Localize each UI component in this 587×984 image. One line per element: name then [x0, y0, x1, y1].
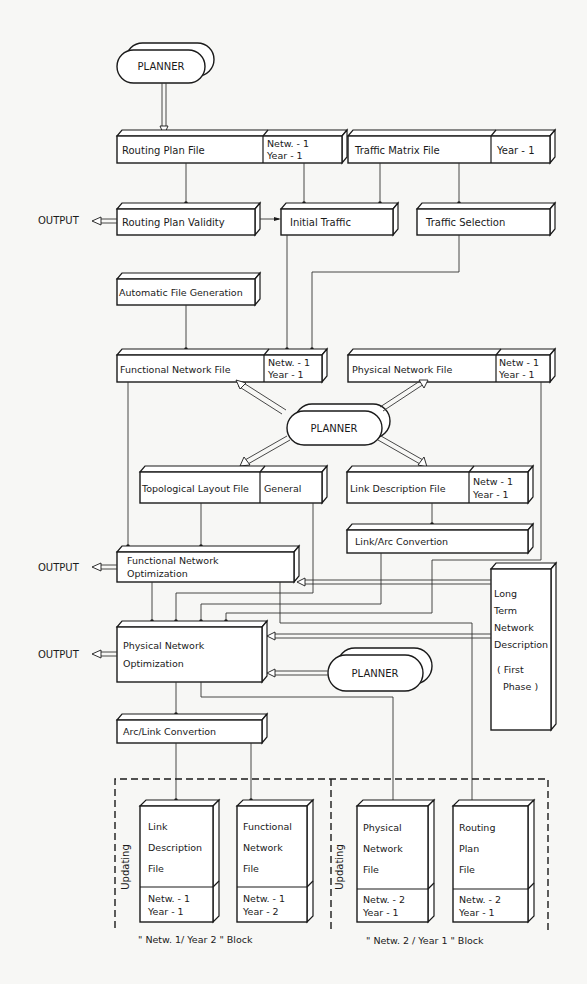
link-description-file-label: Link Description File [350, 483, 446, 494]
functional-network-file-box[interactable]: Functional Network File Netw. - 1 Year -… [117, 349, 327, 382]
long-term-line-3: Network [494, 622, 534, 633]
block2-file1-line1: Physical [363, 822, 402, 833]
planner-center: PLANNER [287, 404, 390, 445]
block1-file2-netw: Netw. - 1 [243, 893, 285, 904]
arc-link-convertion-box[interactable]: Arc/Link Convertion [117, 714, 267, 743]
planner-bottom-to-physical-arrow [267, 669, 328, 677]
long-term-to-physical-arrow [267, 632, 491, 640]
functional-network-file-netw: Netw. - 1 [268, 357, 310, 368]
block2-file1-netw: Netw. - 2 [363, 894, 405, 905]
block1-file1-netw: Netw. - 1 [148, 893, 190, 904]
block1-file1-line1: Link [148, 821, 168, 832]
network-planning-flow-diagram: PLANNER Routing Plan File Netw. - 1 Year… [0, 0, 587, 984]
routing-plan-file-netw: Netw. - 1 [267, 138, 309, 149]
block2-file2-line3: File [459, 864, 475, 875]
planner-bottom: PLANNER [328, 648, 432, 691]
block2-file2-netw: Netw. - 2 [459, 894, 501, 905]
block1-link-description-file[interactable]: Link Description File Netw. - 1 Year - 1 [140, 800, 219, 922]
block1-updating-label: Updating [120, 844, 131, 890]
block2-file1-line2: Network [363, 843, 403, 854]
long-term-line-1: Long [494, 588, 517, 599]
physical-network-optimization-line1: Physical Network [123, 640, 205, 651]
initial-traffic-label: Initial Traffic [290, 217, 351, 228]
automatic-file-generation-label: Automatic File Generation [119, 287, 243, 298]
output-label-validity: OUTPUT [38, 215, 80, 226]
physical-network-optimization-box[interactable]: Physical Network Optimization [117, 621, 267, 682]
traffic-matrix-file-box[interactable]: Traffic Matrix File Year - 1 [348, 130, 555, 163]
output-arrow-physical [92, 650, 117, 658]
routing-plan-file-box[interactable]: Routing Plan File Netw. - 1 Year - 1 [117, 130, 347, 163]
update-block-netw1-year2: Updating Link Description File Netw. - 1… [120, 800, 313, 945]
physical-network-file-label: Physical Network File [352, 364, 452, 375]
long-term-line-4: Description [494, 639, 548, 650]
link-description-file-box[interactable]: Link Description File Netw - 1 Year - 1 [347, 466, 533, 503]
link-arc-convertion-box[interactable]: Link/Arc Convertion [347, 524, 533, 553]
block2-updating-label: Updating [334, 844, 345, 890]
block1-file1-line2: Description [148, 842, 202, 853]
functional-network-optimization-line1: Functional Network [127, 555, 219, 566]
routing-plan-file-label: Routing Plan File [122, 145, 205, 156]
block2-physical-network-file[interactable]: Physical Network File Netw. - 2 Year - 1 [357, 800, 434, 922]
link-description-file-year: Year - 1 [472, 489, 509, 500]
routing-plan-validity-box[interactable]: Routing Plan Validity [117, 203, 260, 235]
topological-layout-file-box[interactable]: Topological Layout File General [140, 466, 327, 503]
long-term-network-description-box[interactable]: Long Term Network Description ( First Ph… [491, 563, 556, 730]
physical-network-optimization-line2: Optimization [123, 658, 184, 669]
routing-plan-validity-label: Routing Plan Validity [122, 217, 225, 228]
long-term-phase-line-2: Phase ) [503, 681, 538, 692]
planner-bottom-label: PLANNER [352, 668, 399, 679]
functional-network-optimization-box[interactable]: Functional Network Optimization [117, 546, 299, 582]
planner-top: PLANNER [117, 43, 214, 83]
traffic-matrix-file-label: Traffic Matrix File [354, 145, 440, 156]
block2-caption: " Netw. 2 / Year 1 " Block [366, 935, 484, 946]
output-arrow-functional [92, 563, 117, 571]
output-label-physical: OUTPUT [38, 649, 80, 660]
traffic-selection-box[interactable]: Traffic Selection [417, 203, 555, 235]
output-label-functional: OUTPUT [38, 562, 80, 573]
long-term-to-functional-arrow [297, 578, 491, 586]
functional-network-file-label: Functional Network File [120, 364, 231, 375]
link-description-file-netw: Netw - 1 [473, 476, 513, 487]
block2-routing-plan-file[interactable]: Routing Plan File Netw. - 2 Year - 1 [453, 800, 534, 922]
block1-file2-year: Year - 2 [242, 906, 279, 917]
block1-file1-line3: File [148, 863, 164, 874]
block2-file1-line3: File [363, 864, 379, 875]
topological-layout-file-tag: General [264, 483, 301, 494]
output-arrow-validity [92, 217, 117, 225]
traffic-matrix-file-year: Year - 1 [496, 145, 535, 156]
update-block-netw2-year1: Updating Physical Network File Netw. - 2… [334, 800, 534, 946]
block1-file2-line1: Functional [243, 821, 292, 832]
planner-top-to-routing-arrow [160, 83, 168, 135]
initial-traffic-box[interactable]: Initial Traffic [281, 203, 398, 235]
routing-plan-file-year: Year - 1 [266, 150, 303, 161]
traffic-selection-label: Traffic Selection [425, 217, 505, 228]
functional-network-file-year: Year - 1 [267, 369, 304, 380]
physical-network-file-year: Year - 1 [498, 369, 535, 380]
physical-network-file-box[interactable]: Physical Network File Netw - 1 Year - 1 [348, 349, 555, 382]
long-term-line-2: Term [493, 605, 517, 616]
functional-network-optimization-line2: Optimization [127, 568, 188, 579]
topological-layout-file-label: Topological Layout File [141, 483, 249, 494]
block2-file2-line2: Plan [459, 843, 479, 854]
planner-center-label: PLANNER [311, 423, 358, 434]
block2-file1-year: Year - 1 [362, 907, 399, 918]
automatic-file-generation-box[interactable]: Automatic File Generation [117, 273, 260, 305]
block1-caption: " Netw. 1/ Year 2 " Block [138, 934, 253, 945]
physical-network-file-netw: Netw - 1 [499, 357, 539, 368]
block1-functional-network-file[interactable]: Functional Network File Netw. - 1 Year -… [237, 800, 313, 922]
block1-file1-year: Year - 1 [147, 906, 184, 917]
arc-link-convertion-label: Arc/Link Convertion [123, 726, 216, 737]
long-term-phase-line-1: ( First [497, 664, 524, 675]
block1-file2-line3: File [243, 863, 259, 874]
block1-file2-line2: Network [243, 842, 283, 853]
block2-file2-year: Year - 1 [458, 907, 495, 918]
link-arc-convertion-label: Link/Arc Convertion [355, 536, 448, 547]
planner-top-label: PLANNER [138, 61, 185, 72]
block2-file2-line1: Routing [459, 822, 495, 833]
